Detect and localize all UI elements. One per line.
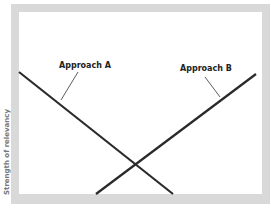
approach-b-leader (205, 77, 220, 97)
approach-a-line (19, 72, 173, 194)
approach-b-label: Approach B (180, 64, 232, 73)
diagram-lines (0, 0, 271, 210)
approach-b-line (96, 74, 256, 194)
approach-a-leader (61, 72, 78, 100)
approach-a-label: Approach A (59, 61, 111, 70)
